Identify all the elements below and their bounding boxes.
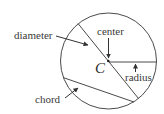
center-letter-label: C	[95, 60, 106, 76]
chord-line	[63, 78, 134, 103]
center-label: center	[97, 25, 124, 37]
diameter-arrow	[56, 36, 88, 45]
radius-label: radius	[125, 71, 152, 83]
center-dot	[107, 60, 110, 63]
circle-diagram: diameter center radius chord C	[0, 0, 164, 114]
diameter-label: diameter	[14, 29, 53, 41]
chord-label: chord	[35, 93, 61, 105]
